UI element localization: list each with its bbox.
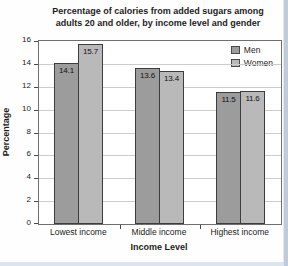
chart-page: Percentage of calories from added sugars… [0, 0, 288, 266]
y-tick-6 [34, 155, 38, 156]
y-tick-label-10: 10 [22, 104, 31, 114]
y-tick-label-12: 12 [22, 81, 31, 91]
bar-value-label: 13.4 [160, 72, 183, 83]
bar-value-label: 15.7 [79, 45, 102, 56]
y-tick-12 [34, 87, 38, 88]
bar-women-1: 13.4 [159, 71, 184, 224]
y-tick-label-6: 6 [27, 149, 31, 159]
x-axis-title: Income Level [38, 242, 280, 252]
plot-area: MenWomen 14.115.713.613.411.511.6 [38, 40, 282, 225]
y-tick-8 [34, 133, 38, 134]
x-axis-labels: Lowest incomeMiddle incomeHighest income [38, 227, 280, 237]
page-edge-bottom [0, 262, 284, 266]
chart-title: Percentage of calories from added sugars… [36, 5, 280, 29]
bar-value-label: 11.6 [241, 92, 264, 103]
y-tick-label-0: 0 [27, 218, 31, 228]
y-tick-label-14: 14 [22, 58, 31, 68]
legend: MenWomen [231, 45, 273, 71]
chart-title-line-1: Percentage of calories from added sugars… [36, 5, 280, 17]
bar-men-2: 11.5 [216, 92, 241, 224]
y-tick-label-4: 4 [27, 172, 31, 182]
x-label-highest-income: Highest income [199, 227, 280, 237]
chart-title-line-2: adults 20 and older, by income level and… [36, 17, 280, 29]
bar-value-label: 13.6 [136, 69, 159, 80]
y-tick-label-2: 2 [27, 195, 31, 205]
y-tick-10 [34, 110, 38, 111]
y-axis-ticks: 0246810121416 [0, 40, 33, 223]
y-tick-16 [34, 41, 38, 42]
bar-women-2: 11.6 [240, 91, 265, 224]
bar-value-label: 11.5 [217, 93, 240, 104]
y-tick-label-16: 16 [22, 35, 31, 45]
y-tick-label-8: 8 [27, 127, 31, 137]
legend-item-men: Men [231, 45, 273, 55]
bar-women-0: 15.7 [78, 44, 103, 224]
y-tick-0 [34, 223, 38, 224]
y-tick-4 [34, 178, 38, 179]
x-label-lowest-income: Lowest income [38, 227, 119, 237]
page-edge-right [283, 0, 288, 266]
bar-men-1: 13.6 [135, 68, 160, 224]
y-tick-14 [34, 64, 38, 65]
legend-swatch-men [231, 46, 240, 54]
bar-men-0: 14.1 [54, 63, 79, 224]
y-tick-2 [34, 201, 38, 202]
bar-value-label: 14.1 [55, 64, 78, 75]
x-label-middle-income: Middle income [119, 227, 200, 237]
legend-label-men: Men [244, 45, 261, 55]
